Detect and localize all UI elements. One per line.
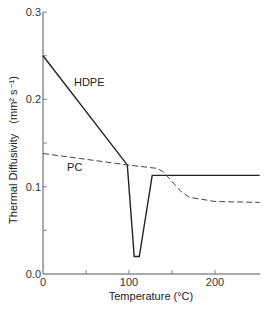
y-axis-label-group: Thermal Diffusivity(mm² s⁻¹) [7, 76, 19, 224]
y-axis-label: Thermal Diffusivity(mm² s⁻¹) [7, 76, 19, 224]
x-tick-label: 200 [206, 276, 224, 288]
series-label-hdpe: HDPE [74, 76, 105, 88]
y-axis-label-text: Thermal Diffusivity [7, 133, 19, 224]
x-axis-label: Temperature (°C) [109, 290, 193, 302]
x-tick-label: 100 [120, 276, 138, 288]
ticks: 01002000.00.10.20.3 [26, 6, 224, 288]
y-tick-label: 0.3 [26, 6, 41, 18]
y-tick-label: 0.2 [26, 93, 41, 105]
axes [43, 12, 260, 274]
thermal-diffusivity-chart: 01002000.00.10.20.3 HDPEPC Temperature (… [0, 0, 267, 309]
series-labels: HDPEPC [67, 76, 104, 173]
series-label-pc: PC [67, 161, 82, 173]
y-axis-label-units: (mm² s⁻¹) [7, 76, 19, 124]
y-tick-label: 0.0 [26, 268, 41, 280]
y-tick-label: 0.1 [26, 181, 41, 193]
